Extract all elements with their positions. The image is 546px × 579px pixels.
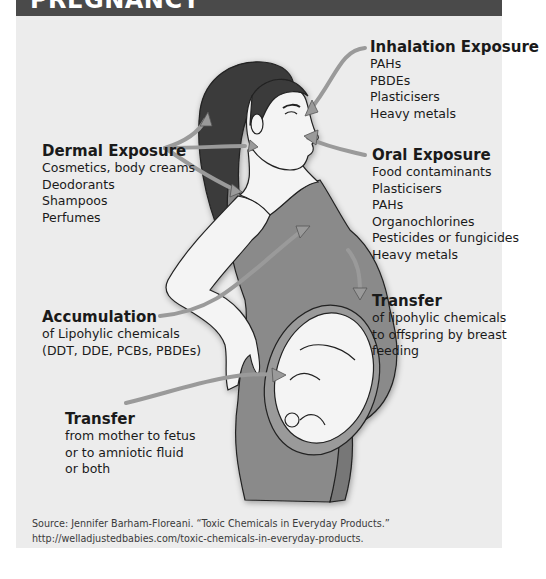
list-item: to offspring by breast: [372, 327, 507, 344]
title-bar: PREGNANCY: [16, 0, 502, 16]
source-url: http://welladjustedbabies.com/toxic-chem…: [32, 531, 390, 546]
source-line-1: Source: Jennifer Barham-Floreani. “Toxic…: [32, 516, 390, 531]
list-item: or both: [65, 461, 195, 478]
list-item: Heavy metals: [372, 247, 519, 264]
label-oral-exposure: Oral Exposure Food contaminants Plastici…: [372, 146, 519, 263]
page-title: PREGNANCY: [30, 0, 200, 14]
list-item: Pesticides or fungicides: [372, 230, 519, 247]
list-item: PAHs: [372, 197, 519, 214]
list-item: Heavy metals: [370, 106, 539, 123]
label-inhalation-exposure: Inhalation Exposure PAHs PBDEs Plasticis…: [370, 38, 539, 122]
list-item: from mother to fetus: [65, 428, 195, 445]
list-item: or to amniotic fluid: [65, 445, 195, 462]
list-item: PAHs: [370, 56, 539, 73]
list-item: Shampoos: [42, 193, 195, 210]
list-item: Cosmetics, body creams: [42, 160, 195, 177]
list-item: Organochlorines: [372, 214, 519, 231]
list-item: Deodorants: [42, 177, 195, 194]
list-item: Plasticisers: [370, 89, 539, 106]
source-citation: Source: Jennifer Barham-Floreani. “Toxic…: [32, 516, 390, 546]
list-item: PBDEs: [370, 73, 539, 90]
list-item: Food contaminants: [372, 164, 519, 181]
label-transfer-breast-feeding: Transfer of lipohylic chemicals to offsp…: [372, 292, 507, 360]
accumulation-title: Accumulation: [42, 308, 201, 326]
label-accumulation: Accumulation of Lipohylic chemicals (DDT…: [42, 308, 201, 359]
transfer-fetus-title: Transfer: [65, 410, 195, 428]
list-item: Perfumes: [42, 210, 195, 227]
list-item: Plasticisers: [372, 181, 519, 198]
label-dermal-exposure: Dermal Exposure Cosmetics, body creams D…: [42, 142, 195, 226]
list-item: (DDT, DDE, PCBs, PBDEs): [42, 343, 201, 360]
infographic-panel: Inhalation Exposure PAHs PBDEs Plasticis…: [16, 16, 502, 548]
transfer-breast-title: Transfer: [372, 292, 507, 310]
inhalation-title: Inhalation Exposure: [370, 38, 539, 56]
list-item: feeding: [372, 343, 507, 360]
oral-title: Oral Exposure: [372, 146, 519, 164]
list-item: of Lipohylic chemicals: [42, 326, 201, 343]
dermal-title: Dermal Exposure: [42, 142, 195, 160]
list-item: of lipohylic chemicals: [372, 310, 507, 327]
label-transfer-fetus: Transfer from mother to fetus or to amni…: [65, 410, 195, 478]
arrow-inhalation: [310, 48, 365, 110]
